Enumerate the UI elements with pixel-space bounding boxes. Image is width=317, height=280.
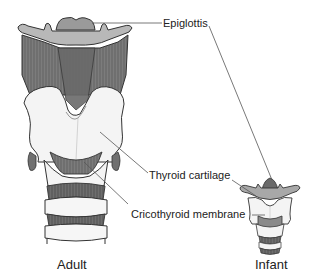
epiglottis-label: Epiglottis	[163, 18, 208, 29]
infant-caption: Infant	[255, 258, 288, 271]
adult-larynx	[18, 17, 132, 244]
adult-tracheal-ring	[45, 197, 107, 217]
thyroid-cartilage-label: Thyroid cartilage	[149, 170, 230, 181]
infant-larynx	[240, 178, 300, 255]
adult-epiglottis	[56, 17, 95, 30]
leader-epiglottis-infant	[209, 26, 272, 180]
adult-tracheal-ring	[45, 224, 107, 241]
adult-caption: Adult	[57, 258, 87, 271]
larynx-diagram	[0, 0, 317, 280]
cricothyroid-membrane-label: Cricothyroid membrane	[131, 209, 245, 220]
